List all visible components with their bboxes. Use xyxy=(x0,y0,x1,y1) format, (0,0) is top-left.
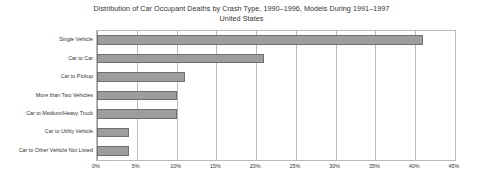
bar-row xyxy=(97,72,455,82)
x-axis-tick-label: 15% xyxy=(210,163,221,170)
x-axis-tick-label: 0% xyxy=(92,163,100,170)
x-axis-tick-label: 5% xyxy=(132,163,140,170)
bar-row xyxy=(97,35,455,45)
bar xyxy=(97,54,264,64)
bar xyxy=(97,91,177,101)
bar-chart-figure: Distribution of Car Occupant Deaths by C… xyxy=(0,0,483,185)
x-axis-tick-label: 30% xyxy=(329,163,340,170)
y-axis-label: Car to Car xyxy=(0,55,93,61)
y-axis-label: Car to Medium/Heavy Truck xyxy=(0,110,93,116)
x-axis-tick-label: 45% xyxy=(449,163,460,170)
x-axis-tick-label: 40% xyxy=(409,163,420,170)
x-axis-tick-label: 25% xyxy=(289,163,300,170)
bar-row xyxy=(97,109,455,119)
bar-row xyxy=(97,54,455,64)
x-axis-tick-label: 20% xyxy=(250,163,261,170)
y-axis-label: Car to Pickup xyxy=(0,73,93,79)
bar-row xyxy=(97,128,455,138)
bar xyxy=(97,35,423,45)
bar xyxy=(97,109,177,119)
bars-layer xyxy=(97,31,455,160)
bar xyxy=(97,128,129,138)
x-axis-tick-label: 35% xyxy=(369,163,380,170)
y-axis-label: Car to Utility Vehicle xyxy=(0,128,93,134)
bar-row xyxy=(97,91,455,101)
bar xyxy=(97,146,129,156)
y-axis-category-labels: Single VehicleCar to CarCar to PickupMor… xyxy=(0,30,93,161)
chart-title-block: Distribution of Car Occupant Deaths by C… xyxy=(0,4,483,24)
x-axis-tick-labels: 0%5%10%15%20%25%30%35%40%45% xyxy=(96,163,456,175)
plot-area xyxy=(96,30,456,161)
y-axis-label: Single Vehicle xyxy=(0,36,93,42)
bar xyxy=(97,72,185,82)
y-axis-label: More than Two Vehicles xyxy=(0,92,93,98)
chart-title: Distribution of Car Occupant Deaths by C… xyxy=(0,4,483,14)
x-axis-tick-label: 10% xyxy=(170,163,181,170)
bar-row xyxy=(97,146,455,156)
y-axis-label: Car to Other Vehicle Not Listed xyxy=(0,147,93,153)
chart-subtitle: United States xyxy=(0,14,483,24)
